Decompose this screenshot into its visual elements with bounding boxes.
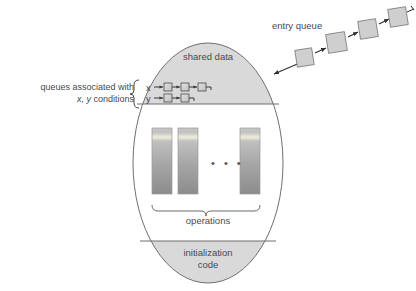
condition-node-x-2 [181,83,189,91]
condition-queues-caption-line2-rest: conditions [91,94,134,104]
condition-node-x-3 [198,83,206,91]
entry-queue-tail [407,9,414,12]
condition-variable-x-label: x [146,83,151,93]
condition-node-y-1 [164,94,172,102]
condition-queues-caption: queues associated with x, y conditions [12,82,134,105]
shared-data-label: shared data [133,52,283,63]
initialization-code-label: initialization code [133,247,283,271]
entry-queue-node-2 [326,32,348,54]
operation-box-2 [178,128,198,194]
operation-box-1 [152,128,172,194]
condition-queues-caption-line1: queues associated with [40,82,134,92]
condition-queues-caption-variables: x, y [77,94,91,104]
entry-queue-link-2 [348,32,358,37]
operations-label: operations [133,216,283,227]
entry-queue-node-1 [295,48,314,67]
entry-queue-node-3 [358,19,379,40]
entry-queue-link-3 [379,19,389,24]
condition-node-y-2 [181,94,189,102]
operations-ellipsis: • • • [211,157,244,169]
shared-data-region [130,40,290,104]
entry-queue-link-1 [315,48,326,53]
diagram-canvas: shared data queues associated with x, y … [0,0,416,291]
entry-queue-node-4 [388,7,409,28]
condition-node-x-1 [164,83,172,91]
condition-variable-y-label: y [146,94,151,104]
initialization-code-label-line1: initialization [183,247,232,258]
entry-queue-label: entry queue [272,21,322,32]
initialization-code-label-line2: code [198,259,219,270]
